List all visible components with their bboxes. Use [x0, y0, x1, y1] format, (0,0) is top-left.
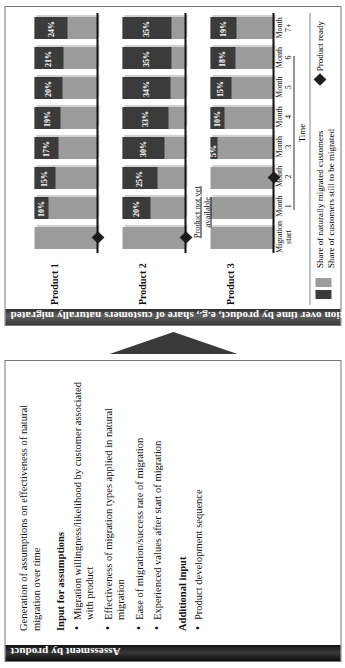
stacked-bar: 19% — [210, 17, 273, 39]
bar-value-label: 20% — [44, 81, 52, 97]
legend-label-migrated: Share of naturally migrated customers — [314, 129, 325, 268]
bar-segment-migrated: 34% — [122, 77, 170, 99]
bar-slot: 15% — [185, 73, 273, 103]
bar-slot — [97, 223, 185, 253]
assessment-panel-body: Generation of assumptions on effectivene… — [5, 361, 340, 645]
stacked-bar: 30% — [122, 137, 185, 159]
plot-rows: Product 110%15%17%19%20%21%24%Product 22… — [9, 13, 273, 305]
bar-segment-migrated: 20% — [122, 197, 150, 219]
assessment-content: Generation of assumptions on effectivene… — [11, 369, 205, 637]
x-axis-tick-line1: Month — [274, 132, 283, 162]
bar-value-label: 30% — [139, 141, 147, 157]
stacked-bar: 15% — [210, 77, 273, 99]
bar-slot: 21% — [9, 43, 97, 73]
x-axis-tick-line1: Month — [274, 72, 283, 102]
x-axis-tick-line1: Migration — [274, 221, 283, 253]
assessment-panel: Assessment by product Generation of assu… — [4, 360, 341, 662]
stacked-bar — [210, 197, 273, 219]
bar-segment-migrated: 15% — [210, 77, 231, 99]
product-not-available-note: Product not yetavailable — [192, 176, 211, 248]
product-row: Product 220%25%30%33%34%35%35% — [97, 13, 185, 253]
assessment-lead-text: Generation of assumptions on effectivene… — [17, 381, 42, 631]
assessment-title-band: Assessment by product — [5, 645, 340, 661]
bar-segment-migrated: 25% — [122, 167, 157, 189]
stacked-bar: 34% — [122, 77, 185, 99]
list-item: Effectiveness of migration types applied… — [102, 380, 127, 620]
bar-value-label: 34% — [142, 81, 150, 97]
chart-area: Product 110%15%17%19%20%21%24%Product 22… — [5, 7, 340, 309]
product-row: Product 35%10%15%18%19%Product not yetav… — [185, 13, 273, 253]
bar-segment-migrated: 17% — [34, 137, 58, 159]
x-axis-tick-line2: 2 — [283, 162, 292, 192]
bar-value-label: 18% — [218, 51, 226, 67]
stacked-bar: 18% — [210, 47, 273, 69]
legend-texts: Share of naturally migrated customers Sh… — [314, 129, 336, 268]
stacked-bar: 21% — [34, 47, 97, 69]
chart-panel: Success rates of natural migration over … — [4, 6, 341, 326]
bar-segment-migrated: 15% — [34, 167, 55, 189]
bar-group: 20%25%30%33%34%35%35% — [97, 13, 185, 253]
bar-slot: 10% — [9, 193, 97, 223]
bar-slot: 33% — [97, 103, 185, 133]
bar-value-label: 24% — [47, 21, 55, 37]
stacked-bar: 17% — [34, 137, 97, 159]
bar-slot: 24% — [9, 13, 97, 43]
bar-value-label: 10% — [213, 111, 221, 127]
bar-segment-migrated: 20% — [34, 77, 62, 99]
bar-slot: 35% — [97, 13, 185, 43]
bar-value-label: 5% — [209, 145, 217, 157]
stacked-bar: 10% — [210, 107, 273, 129]
bar-segment-migrated: 5% — [210, 137, 217, 159]
bar-slot — [9, 223, 97, 253]
assessment-section-heading-input: Input for assumptions — [54, 375, 67, 631]
legend-swatch-remaining — [315, 278, 331, 287]
product-row-label: Product 2 — [136, 255, 147, 305]
product-row: Product 110%15%17%19%20%21%24% — [9, 13, 97, 253]
slide-rotation-wrapper: Assessment by product Generation of assu… — [0, 0, 345, 668]
stacked-bar: 35% — [122, 47, 185, 69]
stacked-bar: 5% — [210, 137, 273, 159]
list-item: Experienced values after start of migrat… — [151, 380, 164, 620]
bar-slot: 30% — [97, 133, 185, 163]
bar-value-label: 20% — [132, 201, 140, 217]
bar-slot: 19% — [9, 103, 97, 133]
assessment-panel-title-wrap: Assessment by product — [10, 646, 122, 658]
bar-slot: 18% — [185, 43, 273, 73]
legend-label-product-ready: Product ready — [314, 21, 324, 71]
row-baseline — [96, 13, 98, 253]
stacked-bar: 10% — [34, 197, 97, 219]
x-axis-tick-line2: 5 — [283, 72, 292, 102]
x-axis-tick-line2: 7+ — [283, 13, 292, 43]
bar-segment-migrated: 18% — [210, 47, 235, 69]
x-axis-tick-line2: 6 — [283, 43, 292, 73]
bar-value-label: 19% — [219, 21, 227, 37]
stacked-bar — [210, 167, 273, 189]
bar-value-label: 35% — [142, 21, 150, 37]
bar-slot: 15% — [9, 163, 97, 193]
stacked-bar: 20% — [122, 197, 185, 219]
assessment-bullet-list-additional: Product development sequence — [192, 375, 205, 631]
x-axis-tick: Month7+ — [274, 13, 292, 43]
assessment-section-heading-additional: Additional input — [176, 375, 189, 631]
bar-segment-migrated: 35% — [122, 47, 171, 69]
bar-slot: 17% — [9, 133, 97, 163]
bar-segment-migrated: 19% — [210, 17, 237, 39]
x-axis-label-wrap: Time — [293, 13, 306, 253]
stacked-bar: 20% — [34, 77, 97, 99]
chart-title-band: Success rates of natural migration over … — [5, 309, 340, 325]
bar-value-label: 35% — [142, 51, 150, 67]
x-axis-tick-line1: Month — [274, 102, 283, 132]
bar-slot: 34% — [97, 73, 185, 103]
stacked-bar — [122, 227, 185, 249]
stacked-bar — [34, 227, 97, 249]
x-axis-tick: Month5 — [274, 72, 292, 102]
bar-slot: 20% — [97, 193, 185, 223]
diamond-icon — [313, 73, 326, 86]
x-axis-tick-line2: 3 — [283, 132, 292, 162]
bar-group: 5%10%15%18%19%Product not yetavailable — [185, 13, 273, 253]
bar-segment-migrated: 10% — [210, 107, 224, 129]
bar-value-label: 17% — [42, 141, 50, 157]
bar-slot: 20% — [9, 73, 97, 103]
chart-legend: Share of naturally migrated customers Sh… — [309, 13, 336, 305]
x-axis-tick-line1: Month — [274, 43, 283, 73]
